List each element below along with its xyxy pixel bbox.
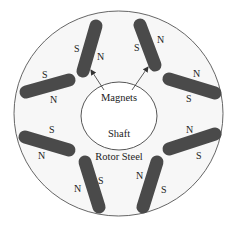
rotor-steel-label: Rotor Steel [95, 151, 143, 162]
pole-label-N: N [50, 94, 57, 105]
pole-label-S: S [98, 175, 104, 186]
pole-label-S: S [161, 184, 167, 195]
pole-label-S: S [186, 93, 192, 104]
pole-label-S: S [74, 43, 80, 54]
pole-label-N: N [157, 34, 164, 45]
pole-label-S: S [42, 69, 48, 80]
magnets-label: Magnets [101, 92, 137, 103]
shaft-label: Shaft [108, 128, 130, 139]
pole-label-N: N [97, 51, 104, 62]
pole-label-N: N [193, 68, 200, 79]
pole-label-N: N [74, 183, 81, 194]
pole-label-N: N [186, 124, 193, 135]
pole-label-S: S [49, 124, 55, 135]
rotor-diagram: S N S N S N N S S N N S N S N S Magnets … [0, 0, 234, 225]
pole-label-S: S [196, 150, 202, 161]
pole-label-N: N [136, 170, 143, 181]
pole-label-N: N [38, 150, 45, 161]
pole-label-S: S [134, 42, 140, 53]
